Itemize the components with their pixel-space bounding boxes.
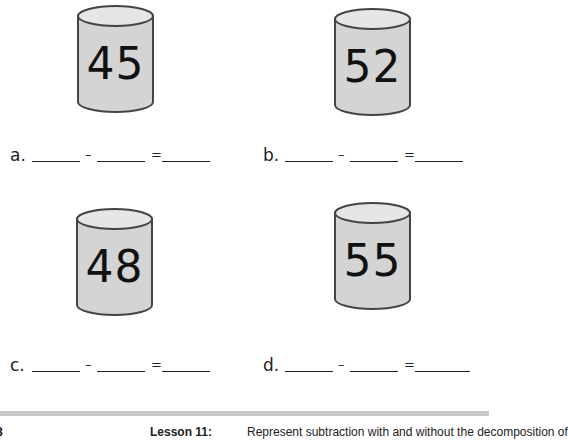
problem-label: b. [263,145,279,165]
cylinder-c: 48 [75,207,154,317]
cylinder-a: 45 [76,4,155,114]
blank-minuend[interactable] [285,161,333,162]
minus-sign: – [85,147,92,162]
blank-subtrahend[interactable] [97,371,145,372]
cylinder-d: 55 [333,201,412,311]
cylinder-number: 45 [76,34,155,94]
cylinder-number: 55 [333,231,412,291]
equation-row-d: d. – = [263,355,489,377]
blank-difference[interactable] [415,371,470,372]
equals-sign: = [151,357,162,372]
cylinder-number: 52 [333,37,412,97]
equals-sign: = [151,147,162,162]
blank-subtrahend[interactable] [350,371,398,372]
equation-row-b: b. – = [263,145,483,167]
equation-row-c: c. – = [10,355,230,377]
minus-sign: – [338,147,345,162]
lesson-description: Represent subtraction with and without t… [247,425,568,439]
footer-divider [0,411,489,416]
minus-sign: – [85,357,92,372]
blank-difference[interactable] [162,161,210,162]
blank-minuend[interactable] [32,161,80,162]
page-number: 8 [0,425,3,439]
blank-difference[interactable] [415,161,463,162]
problem-label: a. [10,145,26,165]
blank-minuend[interactable] [32,371,80,372]
problem-label: d. [263,355,279,375]
blank-minuend[interactable] [285,371,333,372]
blank-subtrahend[interactable] [97,161,145,162]
blank-difference[interactable] [162,371,210,372]
cylinder-b: 52 [333,7,412,117]
minus-sign: – [338,357,345,372]
equals-sign: = [404,357,415,372]
lesson-label: Lesson 11: [150,425,212,439]
problem-label: c. [10,355,25,375]
equals-sign: = [404,147,415,162]
blank-subtrahend[interactable] [350,161,398,162]
cylinder-number: 48 [75,237,154,297]
equation-row-a: a. – = [10,145,230,167]
